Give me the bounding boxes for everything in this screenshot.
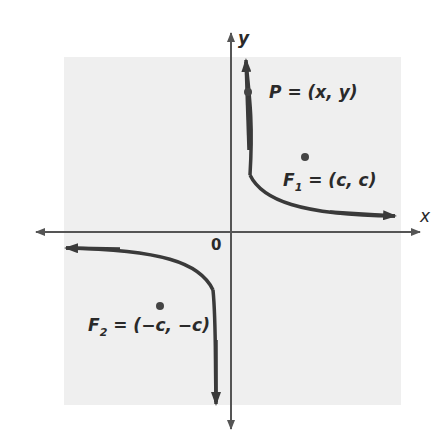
hyperbola-diagram: y x 0 P = (x, y) F1 = (c, c) F2 = (−c, −… <box>0 0 448 436</box>
focus-F1 <box>301 153 309 161</box>
focus-F2 <box>156 302 164 310</box>
point-P-label: P = (x, y) <box>269 82 358 102</box>
point-P <box>244 88 252 96</box>
x-axis-label: x <box>419 206 431 226</box>
y-axis-label: y <box>238 28 250 48</box>
origin-label: 0 <box>211 236 221 254</box>
